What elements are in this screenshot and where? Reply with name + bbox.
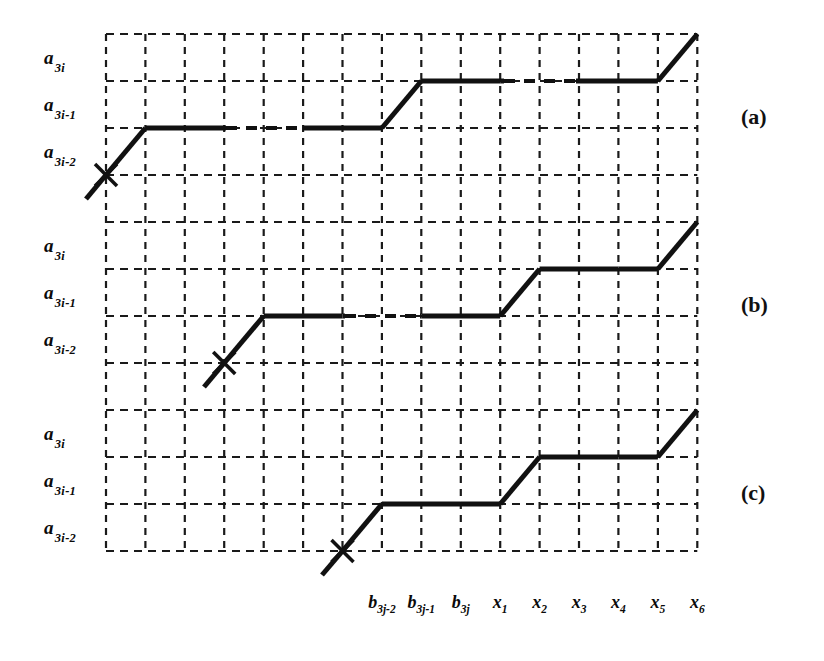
y-tick-a-3i-2-panel-a: a3i-2: [44, 141, 75, 167]
x-tick-sub: 3j: [461, 603, 470, 615]
y-tick-base: a: [44, 94, 54, 115]
x-tick-base: x: [690, 592, 699, 612]
x-tick-x-4: x4: [611, 592, 626, 613]
x-tick-base: x: [572, 592, 581, 612]
x-tick-x-1: x1: [493, 592, 508, 613]
y-tick-sub: 3i-2: [55, 343, 76, 357]
y-tick-a-3i-2-panel-c: a3i-2: [44, 517, 75, 543]
y-tick-sub: 3i: [55, 249, 65, 263]
x-tick-sub: 2: [541, 603, 547, 615]
y-tick-a-3i-1-panel-b: a3i-1: [44, 282, 75, 308]
x-tick-base: x: [611, 592, 620, 612]
x-tick-sub: 4: [620, 603, 626, 615]
x-tick-x-2: x2: [532, 592, 547, 613]
x-tick-sub: 6: [699, 603, 705, 615]
x-tick-x-5: x5: [651, 592, 666, 613]
y-tick-sub: 3i: [55, 61, 65, 75]
x-tick-x-6: x6: [690, 592, 705, 613]
x-tick-b-3j-2: b3j-2: [368, 592, 396, 613]
y-tick-a-3i-panel-a: a3i: [44, 47, 64, 73]
x-tick-base: b: [452, 592, 461, 612]
x-tick-sub: 3j-2: [377, 603, 396, 615]
y-tick-a-3i-2-panel-b: a3i-2: [44, 329, 75, 355]
plot-canvas: [0, 0, 824, 661]
grid-lines: [106, 34, 697, 551]
y-tick-sub: 3i: [55, 437, 65, 451]
y-tick-base: a: [44, 282, 54, 303]
y-tick-base: a: [44, 517, 54, 538]
x-tick-base: x: [651, 592, 660, 612]
path-segment-solid: [658, 222, 697, 269]
x-tick-b-3j: b3j: [452, 592, 470, 613]
x-tick-base: b: [408, 592, 417, 612]
x-tick-sub: 1: [502, 603, 508, 615]
y-tick-base: a: [44, 47, 54, 68]
y-tick-a-3i-1-panel-c: a3i-1: [44, 470, 75, 496]
y-tick-base: a: [44, 470, 54, 491]
y-tick-sub: 3i-2: [55, 155, 76, 169]
x-tick-sub: 5: [660, 603, 666, 615]
x-tick-base: b: [368, 592, 377, 612]
path-segment-solid: [658, 34, 697, 81]
y-tick-sub: 3i-1: [55, 296, 76, 310]
x-tick-x-3: x3: [572, 592, 587, 613]
y-tick-sub: 3i-1: [55, 108, 76, 122]
y-tick-a-3i-panel-c: a3i: [44, 423, 64, 449]
path-group: [86, 34, 697, 575]
path-segment-solid: [658, 410, 697, 457]
y-tick-a-3i-panel-b: a3i: [44, 235, 64, 261]
staircase-path-figure: a3i a3i-1 a3i-2 a3i a3i-1 a3i-2 a3i a3i-…: [0, 0, 824, 661]
path-segment-solid: [500, 457, 539, 504]
panel-letter-c: (c): [741, 480, 765, 506]
x-tick-sub: 3j-1: [417, 603, 436, 615]
y-tick-a-3i-1-panel-a: a3i-1: [44, 94, 75, 120]
path-segment-solid: [500, 269, 539, 316]
panel-letter-a: (a): [741, 104, 767, 130]
x-tick-base: x: [493, 592, 502, 612]
x-tick-b-3j-1: b3j-1: [408, 592, 436, 613]
x-tick-sub: 3: [581, 603, 587, 615]
panel-letter-b: (b): [741, 292, 768, 318]
y-tick-base: a: [44, 141, 54, 162]
path-segment-solid: [382, 81, 421, 128]
x-tick-base: x: [532, 592, 541, 612]
y-tick-base: a: [44, 329, 54, 350]
y-tick-base: a: [44, 235, 54, 256]
y-tick-sub: 3i-1: [55, 484, 76, 498]
y-tick-sub: 3i-2: [55, 531, 76, 545]
y-tick-base: a: [44, 423, 54, 444]
